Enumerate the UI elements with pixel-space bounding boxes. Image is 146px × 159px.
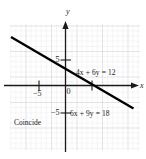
y-tick-label-5: 5 — [56, 56, 60, 64]
x-axis-label: x — [140, 82, 144, 90]
coordinate-plane-svg — [0, 0, 146, 159]
origin-label: 0 — [67, 88, 71, 96]
x-tick-label-neg5: −5 — [33, 90, 42, 98]
equation-label-1: 4x + 6y = 12 — [76, 69, 116, 77]
equation-label-2: 6x + 9y = 18 — [70, 110, 110, 118]
grid-background — [10, 25, 140, 151]
y-tick-label-neg5: −5 — [51, 109, 60, 117]
coincide-note: Coincide — [14, 119, 41, 127]
graph-figure: y x 0 −5 5 −5 4x + 6y = 12 6x + 9y = 18 … — [0, 0, 146, 159]
y-axis-label: y — [66, 8, 70, 16]
